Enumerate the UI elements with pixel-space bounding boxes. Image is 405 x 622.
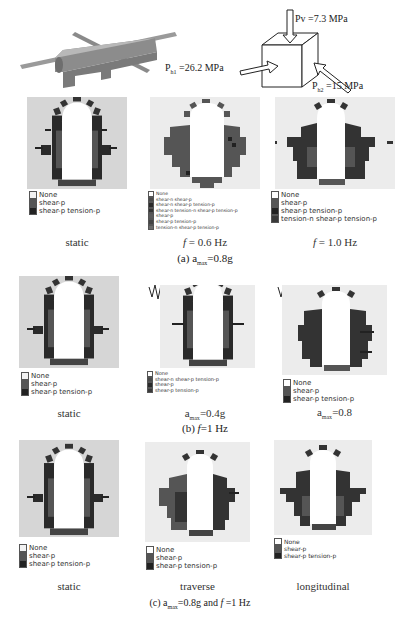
legend-label: None: [31, 372, 49, 380]
legend-label: shear-p: [156, 554, 182, 562]
caption-row-a: (a) amax=0.8g: [150, 252, 260, 266]
caption-prefix: (a) a: [177, 252, 197, 264]
legend-label: shear-p tension-p: [155, 388, 199, 394]
label-c-longitudinal: longitudinal: [274, 580, 372, 592]
legend-item: shear-p: [21, 380, 92, 388]
swatch-shear-p-tension-p: [19, 560, 27, 568]
legend-item: shear-p: [274, 545, 336, 552]
ph1-label: Ph1 =26.2 MPa: [165, 62, 224, 75]
freq-value: = 0.6 Hz: [186, 236, 227, 248]
swatch-shear-p: [19, 552, 27, 560]
legend-item: shear-p: [283, 387, 354, 395]
legend-label: shear-p tension-p: [293, 395, 354, 403]
plot-b-0.4g: [160, 285, 255, 368]
swatch-shear-p: [274, 545, 282, 552]
legend-item: shear-p tension-p: [21, 388, 92, 396]
plot-c-traverse: [145, 442, 250, 542]
legend-item: shear-p tension-p: [19, 560, 90, 568]
amax-sub: max: [322, 414, 332, 420]
legend-item: None: [146, 546, 217, 554]
legend-item: None: [283, 379, 354, 387]
amax-sub: max: [190, 415, 200, 421]
tunnel-3d-model: [15, 20, 185, 90]
caption-suffix: =1 Hz: [201, 422, 228, 434]
swatch-shear-p-tension-p: [146, 562, 154, 570]
legend-label: None: [281, 191, 299, 199]
legend-c-longitudinal: None shear-p shear-p tension-p: [274, 538, 336, 559]
swatch-shear-p-tension-p: [283, 395, 291, 403]
swatch-none: [271, 191, 279, 199]
legend-a-0.6hz: None shear-n shear-p shear-n shear-p ten…: [148, 191, 238, 230]
caption-sub: max: [197, 260, 207, 266]
legend-item: tension-n shear-p tension-p: [148, 225, 238, 231]
legend-label: tension-n shear-p tension-p: [281, 215, 377, 223]
legend-item: shear-p tension-p: [283, 395, 354, 403]
swatch-none: [146, 546, 154, 554]
legend-label: shear-p: [31, 380, 57, 388]
legend-label: shear-p: [39, 199, 65, 207]
legend-label: shear-p tension-p: [31, 388, 92, 396]
legend-label: None: [156, 546, 174, 554]
legend-item: None: [29, 191, 100, 199]
legend-item: shear-p: [29, 199, 100, 207]
swatch-shear-p: [146, 554, 154, 562]
caption-suffix: =0.8g: [207, 252, 232, 264]
amax-value: =0.4g: [200, 407, 225, 419]
swatch-shear-p-tension-p: [147, 388, 153, 394]
ph1-value: =26.2 MPa: [177, 62, 224, 73]
swatch-shear-p-tension-p: [29, 207, 37, 215]
swatch-none: [21, 372, 29, 380]
legend-label: tension-n shear-p tension-p: [156, 225, 219, 231]
legend-label: None: [293, 379, 311, 387]
legend-item: None: [21, 372, 92, 380]
amax-value: =0.8: [332, 406, 352, 418]
caption-row-c: (c) amax=0.8g and f =1 Hz: [120, 597, 280, 610]
caption-prefix: (c) a: [149, 597, 167, 608]
label-c-static: static: [19, 580, 119, 592]
legend-a-static: None shear-p shear-p tension-p: [29, 191, 100, 215]
label-a-static: static: [27, 236, 127, 248]
swatch-shear-p-tension-p: [21, 388, 29, 396]
swatch-none: [274, 538, 282, 545]
swatch-shear-p: [29, 199, 37, 207]
caption-end: =1 Hz: [223, 597, 250, 608]
legend-label: shear-p tension-p: [29, 560, 90, 568]
swatch-shear-p-tension-p: [271, 207, 279, 215]
plot-a-1.0hz: [275, 97, 395, 189]
legend-label: shear-p tension-p: [39, 207, 100, 215]
ph2-label: Ph2 =15 MPa: [312, 80, 363, 93]
caption-row-b: (b) f=1 Hz: [150, 422, 260, 434]
label-a-1.0hz: f = 1.0 Hz: [275, 236, 395, 248]
swatch-tension-n-shear-p-tension-p: [148, 225, 154, 231]
legend-label: None: [284, 538, 300, 545]
legend-label: shear-p tension-p: [281, 207, 342, 215]
label-b-0.4g: amax=0.4g: [150, 407, 260, 421]
label-b-static: static: [19, 407, 119, 419]
caption-sub: max: [168, 604, 178, 610]
legend-item: None: [271, 191, 377, 199]
swatch-tension-n-shear-p-tension-p: [271, 215, 279, 223]
legend-label: None: [39, 191, 57, 199]
legend-label: shear-p: [29, 552, 55, 560]
plot-c-static: [19, 440, 119, 537]
legend-c-static: None shear-p shear-p tension-p: [19, 544, 90, 568]
legend-item: shear-p: [19, 552, 90, 560]
swatch-none: [19, 544, 27, 552]
legend-item: shear-p tension-p: [274, 552, 336, 559]
label-a-0.6hz: f = 0.6 Hz: [150, 236, 260, 248]
pv-label: Pv =7.3 MPa: [295, 13, 348, 24]
plot-a-0.6hz: [150, 97, 260, 189]
legend-label: shear-p tension-p: [156, 562, 217, 570]
caption-mid: =0.8g and: [178, 597, 221, 608]
caption-prefix: (b): [182, 422, 198, 434]
legend-item: shear-p tension-p: [271, 207, 377, 215]
legend-item: shear-p: [146, 554, 217, 562]
legend-b-static: None shear-p shear-p tension-p: [21, 372, 92, 396]
swatch-none: [29, 191, 37, 199]
swatch-shear-p: [283, 387, 291, 395]
legend-item: shear-p tension-p: [147, 388, 219, 394]
legend-label: None: [29, 544, 47, 552]
legend-item: None: [19, 544, 90, 552]
swatch-shear-p: [271, 199, 279, 207]
legend-label: shear-p: [293, 387, 319, 395]
